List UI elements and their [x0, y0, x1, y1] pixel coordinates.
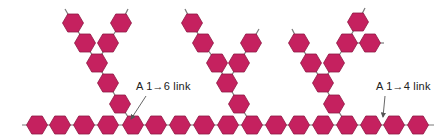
- pointer-arrow-icon: [383, 96, 385, 117]
- glucose-units: [27, 13, 429, 134]
- glucose-unit-hexagon: [324, 95, 345, 113]
- alpha-1-6-link-label: A 1→6 link: [136, 80, 191, 92]
- glucose-unit-hexagon: [218, 116, 239, 134]
- glucose-unit-hexagon: [360, 34, 381, 52]
- glucose-unit-hexagon: [194, 116, 215, 134]
- alpha-1-4-link-label: A 1→4 link: [376, 80, 431, 92]
- glucose-unit-hexagon: [98, 34, 119, 52]
- glucose-unit-hexagon: [87, 54, 108, 72]
- glucose-unit-hexagon: [98, 74, 119, 92]
- glucose-unit-hexagon: [207, 54, 228, 72]
- glucose-unit-hexagon: [324, 54, 345, 72]
- glucose-unit-hexagon: [313, 116, 334, 134]
- glucose-unit-hexagon: [75, 34, 96, 52]
- glucose-unit-hexagon: [289, 34, 310, 52]
- glucose-unit-hexagon: [384, 116, 405, 134]
- glucose-unit-hexagon: [98, 116, 119, 134]
- glucose-unit-hexagon: [182, 14, 203, 32]
- glucose-unit-hexagon: [110, 95, 131, 113]
- glucose-unit-hexagon: [289, 116, 310, 134]
- glucose-unit-hexagon: [123, 116, 144, 134]
- glucose-unit-hexagon: [27, 116, 48, 134]
- glucose-unit-hexagon: [337, 116, 358, 134]
- glucose-unit-hexagon: [313, 74, 334, 92]
- glucose-unit-hexagon: [301, 54, 322, 72]
- glucose-unit-hexagon: [111, 14, 132, 32]
- glucose-unit-hexagon: [229, 54, 250, 72]
- glucose-unit-hexagon: [241, 34, 262, 52]
- annotation-arrows: [131, 96, 385, 119]
- glucose-unit-hexagon: [348, 13, 369, 31]
- glucose-unit-hexagon: [408, 116, 429, 134]
- glucose-unit-hexagon: [229, 95, 250, 113]
- glucose-unit-hexagon: [266, 116, 287, 134]
- pointer-arrow-icon: [131, 96, 146, 119]
- glycosidic-bonds: [22, 8, 434, 125]
- glucose-unit-hexagon: [74, 116, 95, 134]
- glucose-unit-hexagon: [217, 74, 238, 92]
- glucose-unit-hexagon: [50, 116, 71, 134]
- glucose-unit-hexagon: [170, 116, 191, 134]
- glucose-unit-hexagon: [242, 116, 263, 134]
- glucose-unit-hexagon: [361, 116, 382, 134]
- glucose-unit-hexagon: [146, 116, 167, 134]
- glucose-unit-hexagon: [63, 14, 84, 32]
- glucose-unit-hexagon: [337, 34, 358, 52]
- glucose-unit-hexagon: [193, 34, 214, 52]
- glycogen-structure-diagram: [0, 0, 447, 139]
